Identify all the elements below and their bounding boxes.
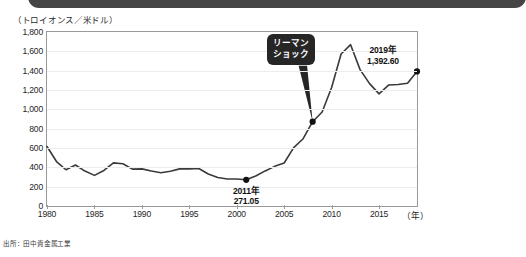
annotation-latest-value: 1,392.60 [367,56,399,66]
annotation-latest-point: 2019年 1,392.60 [355,45,411,66]
y-axis-tick-label: 1,600 [3,46,43,56]
annotation-low-year: 2011年 [233,186,260,196]
x-axis-tick-label: 1985 [85,209,103,219]
y-axis-tick-label: 1,000 [3,104,43,114]
y-axis-tick-label: 1,400 [3,66,43,76]
annotation-low-value: 271.05 [234,196,259,206]
data-point-marker [310,119,316,125]
x-axis-tick-label: 1980 [38,209,56,219]
gridline [47,148,417,149]
source-note: 出所：田中貴金属工業 [3,238,71,248]
x-axis-tick-mark [47,205,48,209]
x-axis-tick-label: 2015 [370,209,388,219]
annotation-lehman-line2: ショック [273,49,309,60]
x-axis-tick-mark [332,205,333,209]
x-axis-tick-label: 2000 [228,209,246,219]
y-axis-tick-label: 200 [3,182,43,192]
y-axis-unit-caption: （トロイオンス／米ドル） [13,13,117,25]
gridline [47,167,417,168]
gridline [47,71,417,72]
gridline [47,109,417,110]
x-axis-tick-label: 2005 [275,209,293,219]
x-axis-tick-label: 2010 [322,209,340,219]
y-axis-tick-label: 600 [3,143,43,153]
data-point-marker [243,177,249,183]
y-axis-tick-label: 400 [3,162,43,172]
x-axis-tick-mark [379,205,380,209]
gridline [47,90,417,91]
x-axis-unit-label: （年） [402,209,428,221]
y-axis-tick-label: 1,200 [3,85,43,95]
annotation-latest-year: 2019年 [369,45,396,55]
y-axis: 02004006008001,0001,2001,4001,6001,800 [0,31,43,207]
top-ribbon-decoration [28,0,526,8]
x-axis-tick-label: 1995 [180,209,198,219]
x-axis-tick-mark [284,205,285,209]
x-axis-tick-mark [142,205,143,209]
callout-pointer [299,66,313,122]
annotation-lehman-line1: リーマン [273,38,309,48]
x-axis-tick-label: 1990 [133,209,151,219]
annotation-low-point: 2011年 271.05 [220,186,272,207]
y-axis-tick-label: 800 [3,124,43,134]
x-axis: 19801985199019952000200520102015（年） [46,209,426,225]
x-axis-tick-mark [189,205,190,209]
annotation-lehman-shock: リーマン ショック [267,34,315,65]
gridline [47,129,417,130]
y-axis-tick-label: 1,800 [3,27,43,37]
x-axis-tick-mark [94,205,95,209]
